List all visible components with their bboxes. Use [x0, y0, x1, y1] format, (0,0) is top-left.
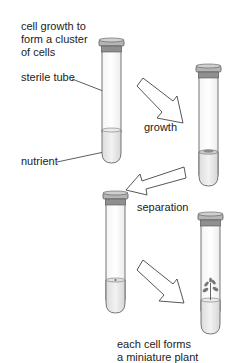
growth-label: growth [144, 121, 177, 134]
growth-arrow [137, 78, 183, 123]
tube-2 [196, 64, 221, 186]
result-label: each cell forms a miniature plant [117, 338, 198, 363]
nutrient-leader [57, 152, 104, 162]
sterile-tube-label: sterile tube [21, 71, 75, 84]
tube-4 [198, 212, 223, 334]
development-arrow [137, 260, 184, 303]
intro-label: cell growth to form a cluster of cells [21, 20, 88, 59]
separation-arrow [126, 167, 186, 195]
single-cell [115, 279, 117, 281]
tube-3 [103, 191, 128, 313]
separation-label: separation [137, 201, 188, 214]
cell-cluster [204, 149, 214, 152]
nutrient-label: nutrient [21, 155, 58, 168]
tube-1 [99, 38, 124, 163]
sterile-tube-leader [72, 79, 103, 91]
